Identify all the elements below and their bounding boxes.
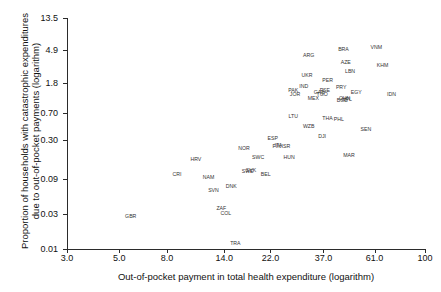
data-point-label: ARG xyxy=(303,52,314,58)
x-tick-label: 37.0 xyxy=(315,253,333,263)
data-point-label: SVK xyxy=(246,167,256,173)
x-axis-title: Out-of-pocket payment in total health ex… xyxy=(67,271,425,282)
data-point-label: HUN xyxy=(283,154,294,160)
data-point-label: DNK xyxy=(226,183,237,189)
x-tick-label: 22.0 xyxy=(262,253,280,263)
data-point-label: VNM xyxy=(370,44,382,50)
x-tick-label: 8.0 xyxy=(161,253,174,263)
y-tick-mark xyxy=(63,50,67,51)
data-point-label: HRV xyxy=(190,156,201,162)
data-point-label: WZB xyxy=(303,123,315,129)
data-point-label: KHM xyxy=(377,62,389,68)
data-point-label: NOR xyxy=(238,145,250,151)
data-point-label: NPL xyxy=(342,96,352,102)
data-point-label: BRA xyxy=(338,46,349,52)
y-tick-mark xyxy=(63,249,67,250)
y-tick-mark xyxy=(63,140,67,141)
data-point-label: ESP xyxy=(268,135,278,141)
data-point-label: PER xyxy=(322,77,333,83)
data-point-label: BEL xyxy=(261,171,271,177)
data-point-label: UKR xyxy=(302,72,313,78)
data-point-label: LBN xyxy=(345,68,355,74)
y-tick-mark xyxy=(63,113,67,114)
data-point-label: EGY xyxy=(351,89,362,95)
y-tick-mark xyxy=(63,214,67,215)
data-point-label: CRI xyxy=(172,171,181,177)
y-tick-mark xyxy=(63,83,67,84)
x-tick-label: 14.0 xyxy=(216,253,234,263)
y-axis-title-line2: due to out-of-pocket payments (logarithm… xyxy=(30,0,41,265)
data-point-label: PSE xyxy=(320,87,330,93)
y-tick-mark xyxy=(63,18,67,19)
data-point-label: SWC xyxy=(252,154,264,160)
data-point-label: JOR xyxy=(290,91,300,97)
data-point-label: AZE xyxy=(341,59,351,65)
data-point-label: COL xyxy=(220,210,231,216)
data-point-label: TRA xyxy=(230,240,240,246)
x-tick-label: 100 xyxy=(417,253,432,263)
data-point-label: IND xyxy=(299,83,308,89)
y-axis-line xyxy=(67,18,68,249)
data-point-label: PHL xyxy=(334,116,344,122)
data-point-label: DJI xyxy=(318,133,326,139)
x-axis-line xyxy=(67,249,425,250)
plot-area xyxy=(67,18,425,249)
y-tick-mark xyxy=(63,179,67,180)
data-point-label: PRY xyxy=(336,84,347,90)
x-tick-label: 3.0 xyxy=(61,253,74,263)
data-point-label: NAM xyxy=(203,174,215,180)
data-point-label: THA xyxy=(322,115,332,121)
y-axis-title: Proportion of households with catastroph… xyxy=(19,0,41,265)
x-tick-label: 5.0 xyxy=(113,253,126,263)
y-axis-title-line1: Proportion of households with catastroph… xyxy=(19,0,30,265)
data-point-label: MAR xyxy=(343,152,355,158)
data-point-label: GBR xyxy=(125,213,136,219)
data-point-label: LTU xyxy=(288,113,297,119)
scatter-chart-figure: 3.05.08.014.022.037.061.0100 13.54.91.80… xyxy=(0,0,441,292)
x-tick-label: 61.0 xyxy=(366,253,384,263)
data-point-label: IDN xyxy=(387,91,396,97)
data-point-label: ISR xyxy=(282,143,291,149)
data-point-label: SEN xyxy=(360,126,371,132)
data-point-label: SVN xyxy=(208,187,219,193)
